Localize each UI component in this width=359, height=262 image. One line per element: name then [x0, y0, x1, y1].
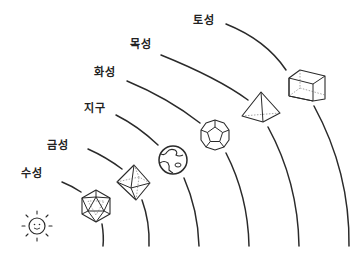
tetrahedron-icon: [242, 92, 280, 122]
orbit-saturn-lower: [314, 106, 349, 246]
orbit-mars: [127, 81, 200, 123]
orbit-venus: [88, 149, 122, 169]
orbit-mercury: [62, 182, 81, 192]
orbit-jupiter: [161, 55, 248, 100]
dodecahedron-icon: [201, 120, 229, 150]
label-earth: 지구: [84, 103, 106, 114]
diagram-canvas: [0, 0, 359, 262]
orbit-mars-lower: [226, 153, 249, 246]
orbit-mercury-lower: [102, 224, 103, 246]
icosahedron-icon: [82, 190, 110, 222]
label-mercury: 수성: [21, 168, 43, 179]
sun-icon: [22, 211, 52, 241]
orbit-venus-lower: [142, 200, 149, 246]
label-saturn: 토성: [193, 15, 215, 26]
label-venus: 금성: [47, 140, 69, 151]
cube-icon: [289, 70, 325, 101]
label-mars: 화성: [94, 67, 116, 78]
orbit-jupiter-lower: [268, 127, 299, 246]
orbit-earth: [116, 115, 158, 145]
orbit-saturn: [226, 24, 286, 70]
octahedron-icon: [117, 165, 150, 200]
earth-icon: [159, 146, 187, 174]
kepler-solar-system-diagram: 수성 금성 지구 화성 목성 토성: [0, 0, 359, 262]
orbit-earth-lower: [184, 178, 199, 246]
label-jupiter: 목성: [130, 39, 152, 50]
